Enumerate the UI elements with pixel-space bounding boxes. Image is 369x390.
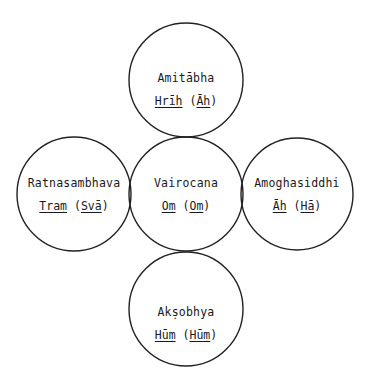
node-mantra: Traṃ (Svā): [14, 199, 134, 213]
alt-seed-syllable: Hā: [300, 199, 314, 213]
alt-seed-syllable: Āḥ: [196, 94, 210, 108]
alt-seed-syllable: Hūṃ: [189, 328, 210, 342]
seed-syllable: Hūṃ: [155, 328, 176, 342]
alt-seed-syllable: Oṃ: [189, 199, 203, 213]
alt-seed-syllable: Svā: [81, 199, 102, 213]
node-top: Amitābha Hrīḥ (Āḥ): [126, 71, 246, 108]
seed-syllable: Hrīḥ: [155, 94, 183, 108]
node-right: Amoghasiddhi Āḥ (Hā): [237, 176, 357, 213]
node-mantra: Oṃ (Oṃ): [126, 199, 246, 213]
node-mantra: Hūṃ (Hūṃ): [126, 328, 246, 342]
node-center: Vairocana Oṃ (Oṃ): [126, 176, 246, 213]
node-name: Amoghasiddhi: [237, 176, 357, 190]
seed-syllable: Oṃ: [162, 199, 176, 213]
node-name: Akṣobhya: [126, 305, 246, 319]
seed-syllable: Āḥ: [273, 199, 287, 213]
node-name: Vairocana: [126, 176, 246, 190]
node-mantra: Āḥ (Hā): [237, 199, 357, 213]
node-mantra: Hrīḥ (Āḥ): [126, 94, 246, 108]
seed-syllable: Traṃ: [39, 199, 67, 213]
node-name: Amitābha: [126, 71, 246, 85]
node-name: Ratnasambhava: [14, 176, 134, 190]
node-left: Ratnasambhava Traṃ (Svā): [14, 176, 134, 213]
node-bottom: Akṣobhya Hūṃ (Hūṃ): [126, 305, 246, 342]
